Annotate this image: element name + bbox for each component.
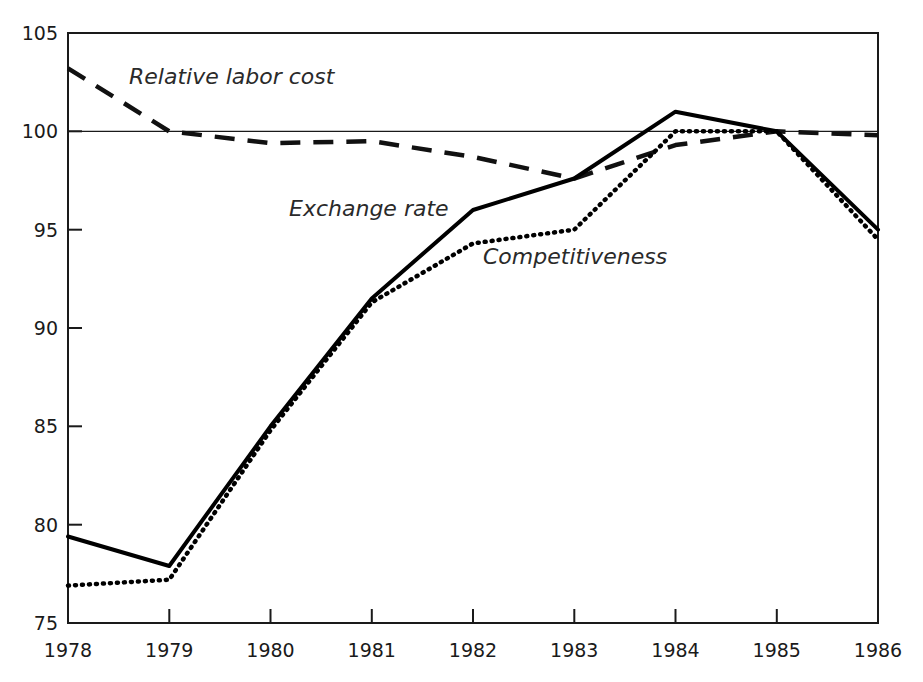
y-axis-label-4: 85 [34,415,58,437]
y-axis-label-6: 75 [34,612,58,634]
x-axis-label-1982: 1982 [449,639,497,661]
x-axis-label-1985: 1985 [753,639,801,661]
series-annotation-competitiveness: Competitiveness [483,244,667,269]
x-axis-labels: 1978 1979 1980 1981 1982 1983 1984 1985 … [44,639,902,661]
y-axis-label-1: 100 [22,120,58,142]
x-axis-label-1984: 1984 [651,639,699,661]
series-annotation-relative-labor-cost: Relative labor cost [129,64,336,89]
chart-container: 105 100 95 90 85 80 75 1978 1979 1980 19… [0,0,923,682]
x-axis-label-1986: 1986 [854,639,902,661]
y-axis-label-2: 95 [34,219,58,241]
x-axis-label-1983: 1983 [550,639,598,661]
x-axis-label-1980: 1980 [246,639,294,661]
series-annotation-exchange-rate: Exchange rate [289,196,449,221]
line-chart: 105 100 95 90 85 80 75 1978 1979 1980 19… [0,0,923,682]
y-axis-label-5: 80 [34,514,58,536]
x-axis-label-1979: 1979 [145,639,193,661]
y-axis-label-0: 105 [22,22,58,44]
y-axis-label-3: 90 [34,317,58,339]
x-axis-label-1981: 1981 [348,639,396,661]
x-axis-label-1978: 1978 [44,639,92,661]
